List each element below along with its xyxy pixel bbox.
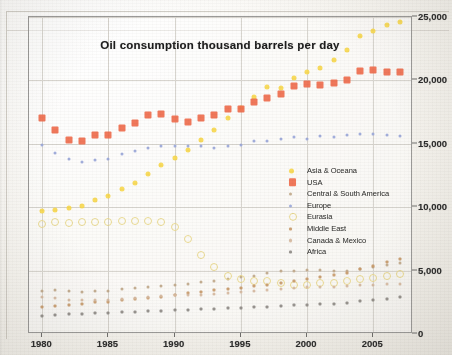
data-point [317, 81, 324, 88]
data-point [131, 217, 139, 225]
x-tick-mark [306, 333, 307, 337]
data-point [212, 127, 217, 132]
data-point [118, 124, 125, 131]
data-point [92, 131, 99, 138]
data-point [147, 146, 150, 149]
data-point [199, 137, 204, 142]
data-point [385, 297, 388, 300]
y-tick-label: 15,000 [418, 137, 447, 148]
data-point [358, 34, 363, 39]
data-point [94, 289, 97, 292]
data-point [186, 294, 189, 297]
y-tick-mark [412, 16, 417, 17]
data-point [80, 290, 83, 293]
data-point [332, 136, 335, 139]
gridline-vertical [108, 17, 109, 332]
legend-label: Canada & Mexico [307, 235, 366, 247]
legend-marker-icon [289, 227, 292, 230]
data-point [316, 279, 324, 287]
chart-title: Oil consumption thousand barrels per day [29, 39, 411, 51]
data-point [226, 307, 229, 310]
data-point [118, 217, 126, 225]
x-tick-mark [240, 333, 241, 337]
data-point [263, 277, 271, 285]
data-point [119, 187, 124, 192]
data-point [253, 285, 256, 288]
data-point [279, 281, 282, 284]
plot-area: Oil consumption thousand barrels per day… [28, 16, 412, 333]
data-point [332, 302, 335, 305]
data-point [226, 287, 229, 290]
x-tick-label: 1995 [229, 338, 250, 349]
legend-item: Europe [287, 200, 415, 212]
x-tick-label: 1980 [31, 338, 52, 349]
data-point [67, 313, 70, 316]
data-point [357, 68, 364, 75]
data-point [67, 289, 70, 292]
data-point [94, 159, 97, 162]
data-point [133, 150, 136, 153]
data-point [345, 301, 348, 304]
legend-label: Central & South America [307, 188, 389, 200]
data-point [54, 305, 57, 308]
data-point [292, 287, 295, 290]
data-point [343, 277, 351, 285]
data-point [210, 263, 218, 271]
data-point [345, 272, 348, 275]
data-point [186, 308, 189, 311]
x-tick-label: 2005 [362, 338, 383, 349]
data-point [292, 279, 295, 282]
data-point [277, 91, 284, 98]
data-point [93, 197, 98, 202]
data-point [331, 58, 336, 63]
data-point [224, 106, 231, 113]
data-point [385, 282, 388, 285]
data-point [359, 284, 362, 287]
data-point [226, 291, 229, 294]
legend-marker-icon [289, 192, 292, 195]
data-point [279, 137, 282, 140]
data-point [120, 311, 123, 314]
x-tick-label: 1985 [97, 338, 118, 349]
data-point [265, 84, 270, 89]
data-point [133, 286, 136, 289]
data-point [397, 20, 402, 25]
y-tick-mark [412, 269, 417, 270]
data-point [186, 145, 189, 148]
data-point [224, 272, 232, 280]
y-tick-mark [412, 79, 417, 80]
legend-marker-icon [289, 213, 297, 221]
legend-item: Asia & Oceana [287, 165, 415, 177]
data-point [213, 289, 216, 292]
gridline-vertical [241, 17, 242, 332]
data-point [398, 282, 401, 285]
legend-marker-icon [289, 250, 292, 253]
data-point [398, 258, 401, 261]
gridline-horizontal [29, 271, 411, 272]
y-tick-label: 10,000 [418, 201, 447, 212]
y-tick-label: 0 [418, 328, 423, 339]
y-tick-mark [412, 142, 417, 143]
legend-item: Eurasia [287, 211, 415, 223]
y-tick-mark [412, 333, 417, 334]
y-tick-label: 5,000 [418, 264, 442, 275]
data-point [290, 281, 298, 289]
data-point [266, 283, 269, 286]
data-point [94, 301, 97, 304]
data-point [319, 286, 322, 289]
data-point [52, 127, 59, 134]
data-point [65, 219, 73, 227]
data-point [266, 305, 269, 308]
data-point [385, 261, 388, 264]
legend-marker-icon [289, 239, 292, 242]
data-point [250, 277, 258, 285]
data-point [200, 293, 203, 296]
data-point [67, 303, 70, 306]
data-point [160, 294, 163, 297]
data-point [94, 298, 97, 301]
data-point [359, 300, 362, 303]
gridline-vertical [175, 17, 176, 332]
data-point [278, 86, 283, 91]
legend-item: Africa [287, 246, 415, 258]
data-point [160, 284, 163, 287]
